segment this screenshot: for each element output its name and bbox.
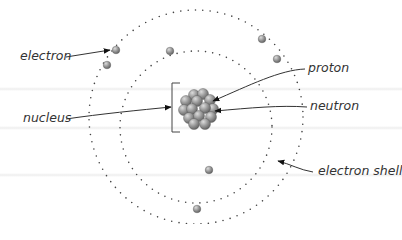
electron-particle xyxy=(103,61,111,69)
electron-particle xyxy=(205,166,213,174)
nucleus-bracket xyxy=(172,83,180,132)
electron-particle xyxy=(166,47,174,55)
electron-particle xyxy=(112,46,120,54)
electron-particle xyxy=(193,205,201,213)
nucleus xyxy=(179,89,219,130)
proton-label: proton xyxy=(308,61,349,75)
electron-particle xyxy=(273,55,281,63)
nucleus-label: nucleus xyxy=(23,111,71,125)
electron-label: electron xyxy=(20,49,71,63)
electron-leader-line xyxy=(66,50,110,57)
electron-particle xyxy=(258,35,266,43)
neutron-label: neutron xyxy=(310,99,359,113)
nucleus-leader-line xyxy=(66,107,171,119)
electron-shell-label: electron shell xyxy=(318,164,402,178)
electron-shell-leader-line xyxy=(278,161,313,172)
neutron-leader-line xyxy=(215,106,307,111)
